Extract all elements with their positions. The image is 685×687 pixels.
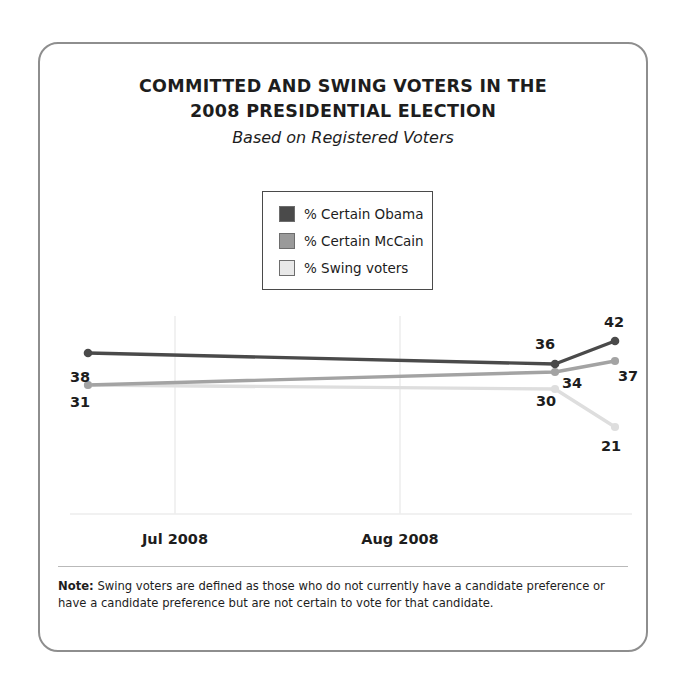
value-label-swing-end: 21 bbox=[601, 438, 621, 454]
value-label-obama-end: 42 bbox=[604, 314, 624, 330]
page-title-line-1: COMMITTED AND SWING VOTERS IN THE bbox=[38, 74, 648, 99]
value-label-swing-mid: 30 bbox=[536, 393, 556, 409]
legend-swatch-icon-swing bbox=[279, 260, 295, 276]
legend-item-swing-voters[interactable]: % Swing voters bbox=[279, 254, 432, 281]
note-divider bbox=[58, 566, 628, 567]
x-axis-tick-jul-2008: Jul 2008 bbox=[105, 531, 245, 547]
value-label-swing-start: 31 bbox=[70, 394, 90, 410]
legend-swatch-icon-mccain bbox=[279, 233, 295, 249]
chart-legend: % Certain Obama % Certain McCain % Swing… bbox=[262, 191, 433, 290]
note-text: Swing voters are defined as those who do… bbox=[58, 579, 605, 610]
legend-item-certain-obama[interactable]: % Certain Obama bbox=[279, 200, 432, 227]
legend-label-certain-obama: % Certain Obama bbox=[304, 206, 423, 222]
chart-title-block: COMMITTED AND SWING VOTERS IN THE 2008 P… bbox=[38, 74, 648, 151]
chart-note: Note: Swing voters are defined as those … bbox=[58, 578, 633, 612]
legend-item-certain-mccain[interactable]: % Certain McCain bbox=[279, 227, 432, 254]
value-label-obama-mid: 36 bbox=[535, 336, 555, 352]
chart-figure: COMMITTED AND SWING VOTERS IN THE 2008 P… bbox=[0, 0, 685, 687]
legend-label-swing-voters: % Swing voters bbox=[304, 260, 408, 276]
value-label-obama-start: 38 bbox=[70, 369, 90, 385]
chart-subtitle: Based on Registered Voters bbox=[38, 125, 648, 151]
legend-label-certain-mccain: % Certain McCain bbox=[304, 233, 424, 249]
note-prefix: Note: bbox=[58, 579, 94, 593]
value-label-mccain-mid: 34 bbox=[562, 375, 582, 391]
x-axis-tick-aug-2008: Aug 2008 bbox=[330, 531, 470, 547]
legend-swatch-icon-obama bbox=[279, 206, 295, 222]
value-label-mccain-end: 37 bbox=[618, 368, 638, 384]
page-title-line-2: 2008 PRESIDENTIAL ELECTION bbox=[38, 99, 648, 124]
